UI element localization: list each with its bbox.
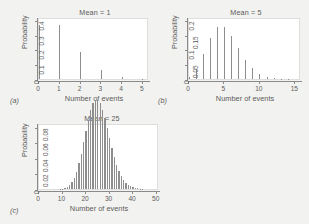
y-tick-label: 0.2: [38, 51, 45, 60]
bar: [109, 138, 110, 189]
y-tick-label: 0.04: [42, 159, 49, 171]
panel-a-letter: (a): [10, 96, 19, 105]
bar: [67, 187, 68, 189]
panel-c-x-axis: [38, 191, 160, 192]
x-tick-label: 0: [36, 195, 40, 202]
panel-a-title: Mean = 1: [38, 8, 152, 17]
bar: [123, 180, 124, 189]
panel-a-plot-area: [38, 18, 148, 80]
x-tick: [121, 81, 122, 84]
bar: [101, 70, 102, 79]
x-tick-label: 30: [105, 195, 112, 202]
x-tick-label: 40: [128, 195, 135, 202]
bar: [95, 100, 96, 189]
y-tick-label: 0.1: [188, 51, 195, 60]
bar: [217, 27, 218, 79]
x-tick: [80, 81, 81, 84]
panel-c-x-axis-label: Number of events: [38, 204, 160, 213]
bar: [135, 188, 136, 189]
bar: [59, 25, 60, 79]
bar: [85, 131, 86, 189]
y-tick-label: 0.15: [192, 36, 199, 48]
y-tick: [35, 159, 38, 160]
bar: [90, 110, 91, 189]
panel-c-letter: (c): [10, 206, 18, 215]
x-tick-label: 5: [140, 85, 144, 92]
bar: [252, 68, 253, 79]
bar: [259, 74, 260, 79]
x-tick-label: 10: [255, 85, 262, 92]
bar: [74, 178, 75, 189]
y-tick-label: 0.06: [42, 144, 49, 156]
panel-a-bars: [39, 19, 147, 79]
bar: [125, 183, 126, 189]
bar: [69, 185, 70, 189]
y-tick-label: 0.02: [42, 175, 49, 187]
bar: [97, 100, 98, 189]
bar: [102, 110, 103, 190]
y-tick: [185, 21, 188, 22]
y-tick: [35, 50, 38, 51]
x-tick-label: 4: [119, 85, 123, 92]
x-tick-label: 15: [291, 85, 298, 92]
x-tick: [142, 81, 143, 84]
y-tick-label: 0.4: [38, 21, 45, 30]
panel-c: Mean = 25 01020304050 00.020.040.060.08 …: [8, 110, 168, 220]
x-tick: [223, 81, 224, 84]
bar: [130, 186, 131, 189]
panel-b-plot-area: [188, 18, 300, 80]
x-tick-label: 0: [36, 85, 40, 92]
bar: [274, 78, 275, 79]
bar: [116, 165, 117, 189]
bar: [132, 187, 133, 189]
y-tick-label: 0: [33, 190, 40, 194]
bar: [76, 172, 77, 189]
panel-b: Mean = 5 051015 00.050.10.150.2 Probabil…: [158, 4, 306, 110]
bar: [92, 103, 93, 189]
x-tick-label: 1: [57, 85, 61, 92]
panel-b-title: Mean = 5: [188, 8, 304, 17]
y-tick: [35, 36, 38, 37]
y-tick-label: 0.3: [38, 36, 45, 45]
x-tick: [294, 81, 295, 84]
bar: [128, 185, 129, 189]
bar: [64, 188, 65, 189]
bar: [107, 128, 108, 189]
y-tick-label: 0: [33, 80, 40, 84]
y-tick: [35, 21, 38, 22]
y-tick: [35, 143, 38, 144]
bar: [231, 36, 232, 79]
y-tick: [185, 36, 188, 37]
bar: [80, 52, 81, 79]
x-tick-label: 3: [98, 85, 102, 92]
x-tick: [59, 81, 60, 84]
x-tick: [109, 191, 110, 194]
panel-b-x-axis: [188, 81, 302, 82]
bar: [224, 27, 225, 79]
bar: [238, 48, 239, 79]
panel-a: Mean = 1 012345 00.10.20.30.4 Probabilit…: [8, 4, 154, 110]
bar: [88, 120, 89, 189]
panel-c-plot-area: [38, 124, 158, 190]
bar: [137, 188, 138, 189]
x-tick-label: 50: [152, 195, 159, 202]
x-tick-label: 5: [222, 85, 226, 92]
panel-c-y-axis: [37, 124, 38, 191]
y-tick: [185, 65, 188, 66]
y-tick: [185, 50, 188, 51]
y-tick-label: 0.05: [192, 66, 199, 78]
x-tick-label: 0: [186, 85, 190, 92]
panel-b-letter: (b): [158, 96, 167, 105]
bar: [267, 77, 268, 79]
y-tick: [35, 65, 38, 66]
x-tick-label: 2: [78, 85, 82, 92]
x-tick: [132, 191, 133, 194]
bar: [100, 103, 101, 189]
x-tick-label: 10: [58, 195, 65, 202]
bar: [78, 163, 79, 189]
bar: [114, 157, 115, 189]
panel-a-x-axis: [38, 81, 150, 82]
y-tick: [35, 174, 38, 175]
x-tick: [156, 191, 157, 194]
panel-b-x-axis-label: Number of events: [188, 94, 302, 103]
